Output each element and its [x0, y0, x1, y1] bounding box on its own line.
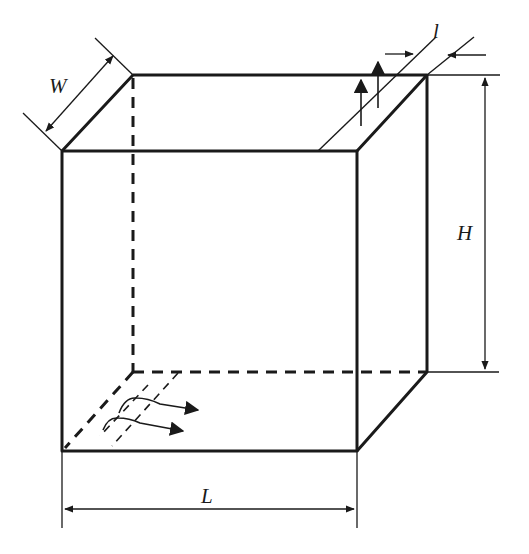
label-l: l [433, 19, 439, 43]
dimension-l [385, 54, 486, 55]
label-length: L [200, 484, 213, 508]
label-w: W [49, 74, 69, 98]
flow-arrow-icon [119, 398, 198, 413]
box-diagram: W l H L [0, 0, 529, 554]
hidden-left-bottom-edge [65, 372, 133, 448]
label-h: H [456, 221, 474, 245]
inlet-slot [100, 373, 178, 446]
inlet-flow-arrows [103, 398, 198, 431]
box-solid-edges [62, 75, 427, 451]
top-face [62, 75, 427, 151]
outlet-flow-arrows [361, 62, 378, 126]
front-face [62, 151, 357, 451]
right-face [357, 75, 427, 451]
